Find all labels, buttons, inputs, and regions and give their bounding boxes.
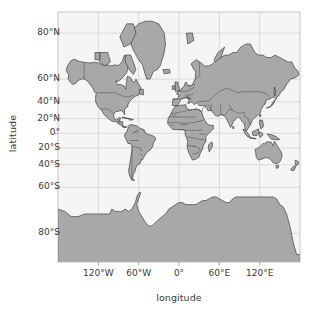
x-axis-title: longitude bbox=[58, 292, 300, 303]
landmass-ireland bbox=[172, 86, 175, 90]
ytick-label: 80°N bbox=[37, 27, 60, 37]
landmass-iceland bbox=[163, 70, 170, 74]
world-map-figure: 80°N60°N40°N20°N0°20°S40°S60°S80°S 120°W… bbox=[0, 0, 319, 313]
xtick-label: 120°E bbox=[230, 268, 290, 278]
ytick-label: 40°S bbox=[38, 159, 60, 169]
map-plot-area bbox=[0, 0, 319, 313]
y-axis-title: latitude bbox=[7, 99, 18, 169]
ytick-label: 20°N bbox=[37, 113, 60, 123]
landmass-banks bbox=[95, 53, 100, 60]
ytick-label: 80°S bbox=[38, 227, 60, 237]
ytick-label: 0° bbox=[50, 127, 60, 137]
ytick-label: 60°S bbox=[38, 181, 60, 191]
ytick-label: 60°N bbox=[37, 73, 60, 83]
ytick-label: 20°S bbox=[38, 142, 60, 152]
landmass-newfoundland bbox=[139, 89, 143, 95]
ytick-label: 40°N bbox=[37, 96, 60, 106]
